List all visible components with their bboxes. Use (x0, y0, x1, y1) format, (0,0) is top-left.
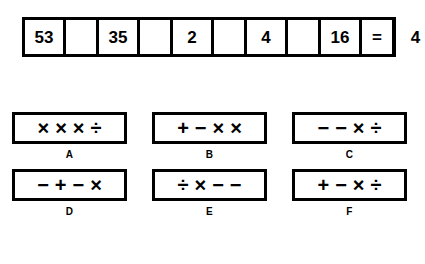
answer-option-d-box[interactable]: − + − × (12, 169, 127, 201)
equation-cell-blank[interactable] (288, 20, 321, 54)
plus-icon: + (317, 175, 329, 195)
equation-cell-number: 35 (99, 20, 140, 54)
minus-icon: − (317, 118, 329, 138)
equation-row: 53 35 2 4 16 = 4 (22, 17, 396, 57)
answer-option-b-label: B (206, 149, 214, 160)
answer-options-grid: × × × ÷ A + − × × B − − × ÷ C (0, 112, 419, 226)
equation-cell-number: 4 (247, 20, 288, 54)
equation-cell-number: 16 (321, 20, 362, 54)
equation-area: 53 35 2 4 16 = 4 (22, 17, 396, 57)
answer-option-a-label: A (66, 149, 74, 160)
equation-cell-result: 4 (395, 20, 425, 54)
answer-option-d-label: D (66, 206, 74, 217)
equation-cell-blank[interactable] (66, 20, 99, 54)
answer-option-f-label: F (346, 206, 353, 217)
equation-cell-equals: = (362, 20, 395, 54)
answer-option-d[interactable]: − + − × D (12, 169, 127, 217)
answer-option-c-box[interactable]: − − × ÷ (292, 112, 407, 144)
equation-cell-number: 2 (173, 20, 214, 54)
answer-option-a-box[interactable]: × × × ÷ (12, 112, 127, 144)
answer-option-c-label: C (346, 149, 354, 160)
minus-icon: − (335, 118, 347, 138)
answer-options-row-top: × × × ÷ A + − × × B − − × ÷ C (0, 112, 419, 160)
minus-icon: − (212, 175, 224, 195)
multiply-icon: × (230, 118, 242, 138)
equation-cell-blank[interactable] (214, 20, 247, 54)
answer-option-e-box[interactable]: ÷ × − − (152, 169, 267, 201)
multiply-icon: × (213, 118, 225, 138)
minus-icon: − (195, 118, 207, 138)
equation-cell-number: 53 (25, 20, 66, 54)
multiply-icon: × (194, 175, 206, 195)
multiply-icon: × (73, 118, 85, 138)
divide-icon: ÷ (371, 118, 382, 138)
equation-cell-blank[interactable] (140, 20, 173, 54)
divide-icon: ÷ (91, 118, 102, 138)
plus-icon: + (55, 175, 67, 195)
answer-option-f[interactable]: + − × ÷ F (292, 169, 407, 217)
multiply-icon: × (90, 175, 102, 195)
minus-icon: − (37, 175, 49, 195)
multiply-icon: × (37, 118, 49, 138)
multiply-icon: × (353, 118, 365, 138)
divide-icon: ÷ (177, 175, 188, 195)
answer-option-a[interactable]: × × × ÷ A (12, 112, 127, 160)
answer-option-b-box[interactable]: + − × × (152, 112, 267, 144)
answer-option-e[interactable]: ÷ × − − E (152, 169, 267, 217)
answer-option-e-label: E (206, 206, 213, 217)
minus-icon: − (335, 175, 347, 195)
plus-icon: + (177, 118, 189, 138)
multiply-icon: × (55, 118, 67, 138)
multiply-icon: × (353, 175, 365, 195)
minus-icon: − (230, 175, 242, 195)
answer-option-c[interactable]: − − × ÷ C (292, 112, 407, 160)
answer-option-b[interactable]: + − × × B (152, 112, 267, 160)
minus-icon: − (73, 175, 85, 195)
answer-options-row-bottom: − + − × D ÷ × − − E + − × ÷ F (0, 169, 419, 217)
answer-option-f-box[interactable]: + − × ÷ (292, 169, 407, 201)
divide-icon: ÷ (371, 175, 382, 195)
